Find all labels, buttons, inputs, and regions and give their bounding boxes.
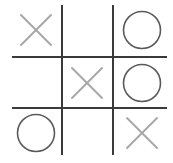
tic-tac-toe-board: [0, 0, 173, 163]
cell-1-0[interactable]: [12, 57, 62, 108]
cell-2-1[interactable]: [62, 108, 113, 155]
cell-0-1[interactable]: [62, 5, 113, 57]
cell-0-2[interactable]: [113, 5, 167, 57]
